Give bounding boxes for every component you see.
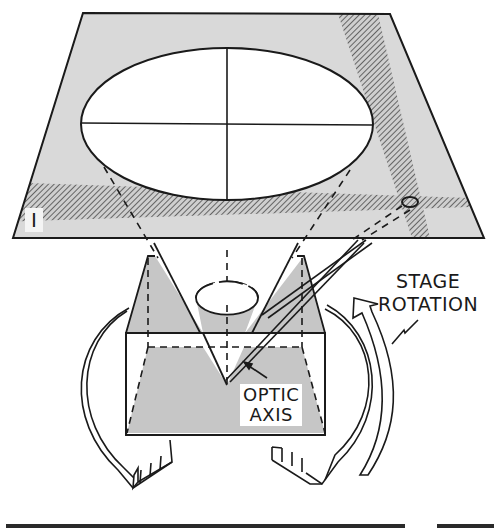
optic-axis-line2: AXIS bbox=[243, 405, 299, 425]
stage-rotation-label: STAGE ROTATION bbox=[378, 270, 478, 316]
plate-label: I bbox=[25, 208, 43, 232]
optic-axis-label: OPTIC AXIS bbox=[240, 384, 302, 426]
optic-axis-line1: OPTIC bbox=[243, 385, 299, 405]
diagram-canvas bbox=[0, 0, 494, 528]
indicatrix-ellipse bbox=[81, 48, 373, 200]
stage-rotation-line1: STAGE bbox=[378, 270, 478, 293]
bottom-border bbox=[6, 524, 494, 528]
stage-rotation-line2: ROTATION bbox=[378, 293, 478, 316]
